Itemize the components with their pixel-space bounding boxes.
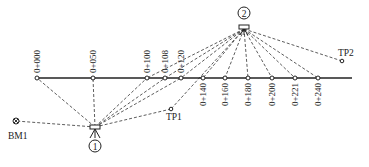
turning-point-icon xyxy=(169,107,173,111)
station-point-0+180 xyxy=(246,76,250,80)
station-label: 0+240 xyxy=(313,83,323,107)
instrument-station-number: 2 xyxy=(242,9,247,19)
instrument-station-number: 1 xyxy=(93,142,98,152)
station-label: 0+120 xyxy=(176,49,186,73)
station-point-0+108 xyxy=(163,76,167,80)
station-point-0+050 xyxy=(91,76,95,80)
station-label: 0+000 xyxy=(32,49,42,73)
station-label: 0+180 xyxy=(243,83,253,107)
station-point-0+100 xyxy=(145,76,149,80)
station-point-0+221 xyxy=(293,76,297,80)
station-point-0+160 xyxy=(223,76,227,80)
station-label: 0+108 xyxy=(160,49,170,73)
station-label: 0+200 xyxy=(267,83,277,107)
tripod-icon xyxy=(90,129,100,138)
turning-point-tp2: TP2 xyxy=(338,48,354,63)
bm1-label: BM1 xyxy=(8,131,28,141)
level-instrument-icon xyxy=(90,125,100,129)
leveling-diagram: 0+000 0+050 0+100 0+108 0+120 0+140 0+16… xyxy=(0,0,369,167)
station-label: 0+221 xyxy=(290,83,300,106)
station-point-0+120 xyxy=(179,76,183,80)
station-point-0+140 xyxy=(201,76,205,80)
tp2-label: TP2 xyxy=(338,48,354,58)
station-point-0+000 xyxy=(35,76,39,80)
tp1-label: TP1 xyxy=(166,112,182,122)
station-point-0+200 xyxy=(270,76,274,80)
instrument-station-1: 1 xyxy=(89,125,101,152)
turning-point-icon xyxy=(340,59,344,63)
station-point-0+240 xyxy=(316,76,320,80)
instrument-station-2: 2 xyxy=(238,7,250,35)
sight-lines-instrument-1 xyxy=(16,78,181,127)
station-label: 0+050 xyxy=(88,49,98,73)
station-label: 0+100 xyxy=(142,49,152,73)
station-label: 0+140 xyxy=(198,83,208,107)
level-instrument-icon xyxy=(239,25,249,29)
station-label: 0+160 xyxy=(220,83,230,107)
